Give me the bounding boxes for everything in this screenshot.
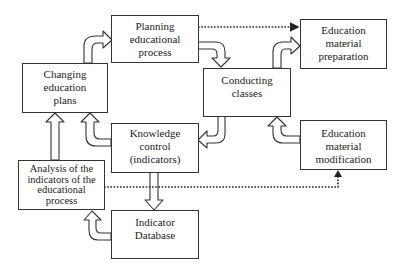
dotted-line-analysis-to-modification — [104, 176, 338, 187]
node-education-material-preparation: Education material preparation — [300, 19, 387, 69]
arrow-conducting-to-knowledge — [198, 116, 225, 148]
node-label-line: process — [139, 46, 172, 59]
node-label-line: Database — [135, 229, 175, 242]
node-label-line: material — [325, 140, 361, 153]
node-label-line: classes — [232, 87, 263, 100]
node-label-line: Analysis of the — [30, 164, 94, 175]
node-changing-education-plans: Changing education plans — [22, 63, 108, 113]
node-label-line: Knowledge — [130, 127, 181, 140]
node-label-line: Indicator — [135, 216, 175, 229]
node-label-line: Conducting — [221, 74, 272, 87]
arrow-knowledge-to-database — [145, 172, 163, 210]
node-indicator-database: Indicator Database — [111, 210, 199, 259]
arrow-conducting-to-prep — [273, 37, 300, 68]
node-label-line: preparation — [318, 50, 368, 63]
node-label-line: plans — [53, 94, 76, 107]
node-label-line: Changing — [44, 68, 87, 81]
node-conducting-classes: Conducting classes — [203, 68, 291, 117]
node-planning-educational-process: Planning educational process — [111, 15, 199, 63]
arrow-database-to-analysis — [84, 211, 111, 240]
node-label-line: Planning — [135, 20, 174, 33]
node-label-line: material — [325, 37, 361, 50]
arrow-planning-to-conducting — [198, 42, 230, 67]
node-label-line: Education — [321, 24, 366, 37]
node-analysis-of-indicators: Analysis of the indicators of the educat… — [18, 160, 105, 210]
node-label-line: educational — [130, 33, 181, 46]
node-label-line: modification — [315, 153, 371, 166]
node-label-line: control — [139, 140, 170, 153]
node-label-line: (indicators) — [130, 153, 181, 166]
arrow-changing-to-planning — [84, 31, 112, 63]
arrow-knowledge-to-changing — [81, 113, 111, 146]
node-label-line: educational — [37, 185, 85, 196]
arrow-modification-to-conducting — [268, 117, 300, 143]
node-education-material-modification: Education material modification — [300, 120, 387, 170]
node-label-line: education — [44, 81, 87, 94]
arrow-analysis-to-changing — [46, 113, 64, 160]
node-label-line: Education — [321, 127, 366, 140]
node-knowledge-control: Knowledge control (indicators) — [111, 123, 199, 173]
dotted-arrowhead-modification — [334, 170, 342, 177]
node-label-line: process — [46, 196, 78, 207]
